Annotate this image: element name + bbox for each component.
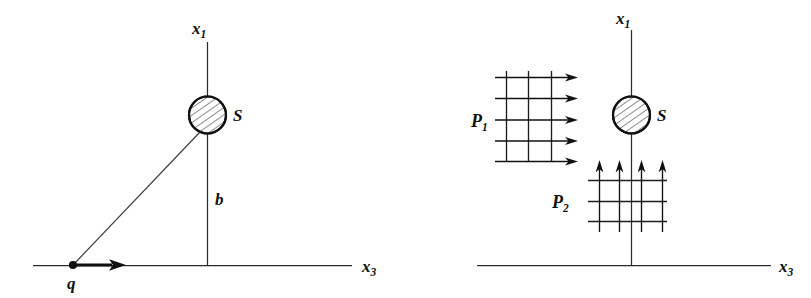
- x1-axis-label-base: x: [615, 9, 625, 28]
- p1-flow-arrow: [495, 137, 578, 145]
- left-panel-diagram: x1 x3 S b q: [0, 0, 405, 298]
- p1-flow-arrow: [495, 95, 578, 103]
- field-grid-p2: [588, 160, 667, 232]
- p1-flow-arrow: [495, 158, 578, 166]
- impact-parameter-label-b: b: [215, 190, 224, 209]
- sphere-label-s-left: S: [233, 106, 242, 125]
- charge-label-q: q: [67, 274, 76, 293]
- field-grid-p1: [495, 71, 578, 165]
- x1-axis-label-base: x: [191, 19, 201, 38]
- charge-velocity-arrow: [74, 259, 126, 271]
- right-panel-diagram: P1 P2: [405, 0, 811, 298]
- field-label-p2-sub: 2: [562, 202, 569, 214]
- x3-axis-label: x3: [778, 257, 794, 278]
- field-label-p1-sub: 1: [482, 121, 488, 133]
- x3-axis-label-base: x: [361, 257, 371, 276]
- x3-axis-label-sub: 3: [787, 266, 794, 278]
- incident-trajectory-line: [74, 132, 200, 264]
- p1-flow-arrow: [495, 116, 578, 124]
- x3-axis-label: x3: [361, 257, 377, 278]
- x1-axis-label-sub: 1: [625, 18, 631, 30]
- sphere-s-left: [189, 97, 226, 134]
- x1-axis-label-sub: 1: [201, 28, 207, 40]
- x1-axis-label: x1: [191, 19, 206, 40]
- sphere-s-right: [613, 97, 650, 134]
- p1-flow-arrow: [495, 74, 578, 82]
- field-label-p2: P2: [551, 192, 569, 214]
- field-label-p1: P1: [470, 111, 488, 133]
- x3-axis-label-sub: 3: [370, 266, 377, 278]
- figure-root: x1 x3 S b q: [0, 0, 811, 298]
- x1-axis-label: x1: [615, 9, 630, 30]
- sphere-label-s-right: S: [657, 106, 666, 125]
- x3-axis-label-base: x: [778, 257, 788, 276]
